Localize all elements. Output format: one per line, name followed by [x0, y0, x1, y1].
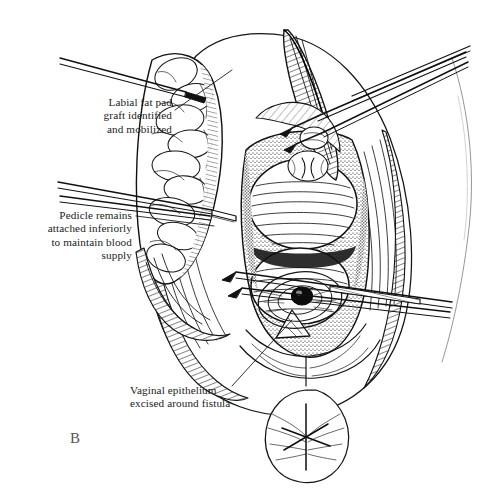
perineal-body: [265, 390, 348, 483]
urethral-meatus-detail: [288, 151, 328, 181]
panel-letter: B: [70, 430, 81, 447]
surgical-figure: Labial fat pad graft identified and mobi…: [0, 0, 490, 500]
surgical-illustration: [0, 0, 490, 500]
